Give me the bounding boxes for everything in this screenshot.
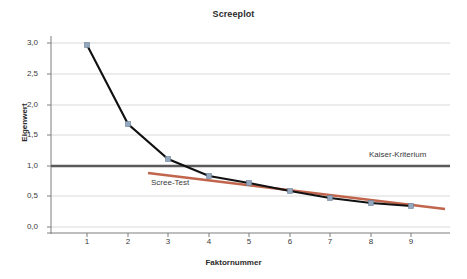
y-tick-label-3: 3,0 [8, 38, 38, 47]
x-tick-label-6: 6 [280, 237, 300, 246]
x-tick-label-5: 5 [239, 237, 259, 246]
data-point-markers [85, 43, 414, 209]
x-tick-label-1: 1 [77, 237, 97, 246]
y-tick-label-1: 1,0 [8, 161, 38, 170]
scree-test-label: Scree-Test [151, 178, 189, 187]
y-tick-label-2-5: 2,5 [8, 69, 38, 78]
y-tick-label-0: 0,0 [8, 222, 38, 231]
x-tick-label-7: 7 [320, 237, 340, 246]
x-tick-label-3: 3 [158, 237, 178, 246]
kaiser-criterion-label: Kaiser-Kriterium [369, 150, 426, 159]
x-tick-label-2: 2 [118, 237, 138, 246]
x-tick-label-8: 8 [361, 237, 381, 246]
x-tick-label-9: 9 [401, 237, 421, 246]
scree-test-trendline [148, 173, 445, 209]
gridlines [51, 43, 450, 227]
x-axis-title: Faktornummer [0, 258, 467, 267]
plot-area [0, 0, 467, 279]
y-tick-label-0-5: 0,5 [8, 191, 38, 200]
y-axis-title: Eigenwert [20, 93, 29, 153]
x-tick-label-4: 4 [199, 237, 219, 246]
y-axis-ticks [47, 43, 51, 227]
screeplot-chart: Screeplot [0, 0, 467, 279]
